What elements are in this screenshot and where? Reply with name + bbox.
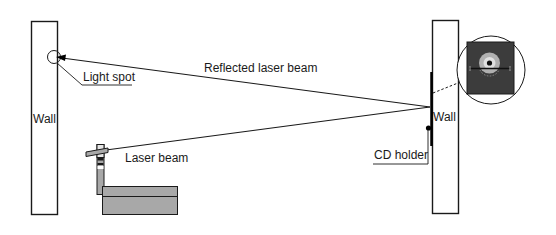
stand-box: [103, 187, 178, 215]
cd-detail-inset: [457, 36, 525, 104]
left-wall-label: Wall: [33, 112, 56, 126]
experiment-diagram: Wall Wall Light spot Reflected laser bea…: [0, 0, 556, 235]
light-spot-label: Light spot: [83, 70, 136, 84]
laser-beam-line: [106, 107, 430, 150]
right-wall-label: Wall: [433, 110, 456, 124]
reflected-beam-label: Reflected laser beam: [204, 61, 317, 75]
cd-holder-label: CD holder: [374, 148, 428, 162]
cd-holder-pivot: [426, 125, 431, 130]
laser-beam-label: Laser beam: [125, 151, 188, 165]
